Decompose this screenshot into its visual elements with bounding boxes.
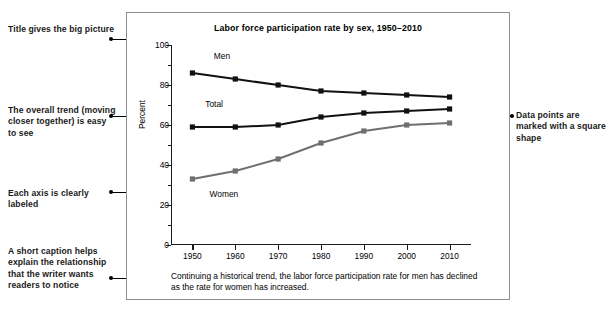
series-line-women — [192, 123, 449, 179]
x-tick-label: 2010 — [433, 251, 467, 261]
x-tick — [450, 245, 451, 250]
series-label-men: Men — [214, 51, 230, 61]
data-point-marker — [276, 82, 281, 87]
y-tick-label: 40 — [145, 160, 169, 170]
chart-series-layer — [171, 45, 471, 245]
y-tick-minor — [168, 225, 171, 226]
x-tick — [364, 245, 365, 250]
data-point-marker — [447, 120, 452, 125]
x-tick — [407, 245, 408, 250]
data-point-marker — [361, 90, 366, 95]
data-point-marker — [276, 122, 281, 127]
annotation-title-callout: Title gives the big picture — [8, 24, 116, 35]
data-point-marker — [404, 92, 409, 97]
data-point-marker — [318, 88, 323, 93]
data-point-marker — [318, 140, 323, 145]
y-tick-minor — [168, 105, 171, 106]
data-point-marker — [276, 156, 281, 161]
figure-box: Labor force participation rate by sex, 1… — [126, 12, 510, 300]
data-point-marker — [190, 124, 195, 129]
x-tick — [192, 245, 193, 250]
data-point-marker — [190, 70, 195, 75]
y-tick-minor — [168, 65, 171, 66]
data-point-marker — [404, 122, 409, 127]
data-point-marker — [404, 108, 409, 113]
data-point-marker — [190, 176, 195, 181]
x-tick — [278, 245, 279, 250]
y-tick-label: 0 — [145, 240, 169, 250]
x-tick-label: 1950 — [175, 251, 209, 261]
data-point-marker — [318, 114, 323, 119]
x-tick — [321, 245, 322, 250]
annotation-axis-callout: Each axis is clearly labeled — [8, 188, 116, 211]
chart-plot-area: Percent 02040608010019501960197019801990… — [171, 45, 471, 245]
y-tick-label: 80 — [145, 80, 169, 90]
series-label-women: Women — [210, 189, 239, 199]
annotation-marker-callout: Data points are marked with a square sha… — [516, 110, 612, 144]
data-point-marker — [233, 76, 238, 81]
figure-annotation-page: Title gives the big picture The overall … — [0, 0, 612, 315]
x-tick-label: 1970 — [261, 251, 295, 261]
y-tick-label: 60 — [145, 120, 169, 130]
x-tick-label: 1990 — [347, 251, 381, 261]
y-tick-label: 100 — [145, 40, 169, 50]
x-tick-label: 1980 — [304, 251, 338, 261]
data-point-marker — [233, 168, 238, 173]
data-point-marker — [447, 94, 452, 99]
y-tick-minor — [168, 185, 171, 186]
arrow-dot-icon — [510, 114, 514, 118]
x-tick-label: 1960 — [218, 251, 252, 261]
y-tick-label: 20 — [145, 200, 169, 210]
figure-caption: Continuing a historical trend, the labor… — [171, 271, 481, 293]
data-point-marker — [447, 106, 452, 111]
annotation-caption-callout: A short caption helps explain the relati… — [8, 246, 116, 292]
chart-title: Labor force participation rate by sex, 1… — [127, 23, 509, 33]
y-tick-minor — [168, 145, 171, 146]
data-point-marker — [233, 124, 238, 129]
annotation-trend-callout: The overall trend (moving closer togethe… — [8, 105, 116, 139]
series-label-total: Total — [205, 99, 223, 109]
x-tick-label: 2000 — [390, 251, 424, 261]
data-point-marker — [361, 128, 366, 133]
data-point-marker — [361, 110, 366, 115]
x-tick — [235, 245, 236, 250]
